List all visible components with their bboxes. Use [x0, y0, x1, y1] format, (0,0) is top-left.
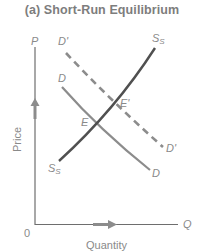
quantity-increase-arrow-icon	[93, 220, 117, 229]
y-axis-symbol: P	[31, 35, 39, 47]
shifted-demand-label-top: D'	[58, 35, 69, 47]
demand-label-top: D	[58, 72, 66, 84]
x-axis-symbol: Q	[183, 218, 192, 230]
origin-label: 0	[24, 227, 30, 239]
x-axis-label: Quantity	[86, 239, 127, 251]
equilibrium-point-label: E	[81, 116, 89, 128]
shifted-demand-label-bottom: D'	[166, 142, 177, 154]
equilibrium-diagram: P Q 0 Quantity Price D' D D' D SS SS E E…	[0, 0, 204, 251]
demand-label-bottom: D	[152, 167, 160, 179]
supply-label-bottom: SS	[48, 162, 61, 176]
price-increase-arrow-icon	[31, 98, 40, 119]
new-equilibrium-point-label: E'	[120, 97, 130, 109]
short-run-supply-curve	[59, 48, 155, 161]
y-axis-label: Price	[11, 127, 23, 152]
demand-curve	[62, 87, 150, 170]
shifted-demand-curve	[66, 53, 163, 147]
supply-label-top: SS	[152, 32, 165, 46]
